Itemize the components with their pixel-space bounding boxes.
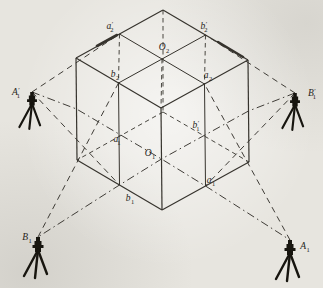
tripod-leg-2 [290, 253, 299, 277]
cube-edge-right_top-right_bottom [248, 60, 249, 162]
sight-ray-A1-a2 [205, 84, 291, 240]
point-label-b1: b1 [126, 193, 134, 205]
cube-edge-left_top-left_bottom [76, 58, 77, 160]
point-label-a2: a2 [204, 70, 212, 82]
tripod-leg-2 [295, 105, 303, 127]
scanned-figure-page: a′2b′2O2b2a2a′1b′1O1b1a1A′1B′1B1A1 [0, 0, 323, 288]
point-label-b1p: b′1 [193, 119, 200, 133]
point-label-O2: O2 [159, 42, 169, 54]
ray-edge-overlap-1 [218, 42, 243, 57]
sight-ray-B1p-a1 [206, 93, 296, 186]
plumb-line-O2-front_top [161, 59, 162, 108]
station-label-B1: B1 [22, 232, 31, 244]
tripod-leg-2 [32, 104, 40, 126]
point-label-O1: O1 [145, 148, 155, 160]
tripod-A1p [19, 92, 40, 129]
tripod-B1p [282, 93, 303, 130]
station-label-A1: A1 [299, 241, 309, 253]
sight-ray-B1-b2 [38, 83, 119, 237]
cube-edge-front_top-front_bottom [161, 108, 162, 210]
point-label-b2: b2 [111, 69, 119, 81]
station-label-B1p: B′1 [308, 87, 316, 101]
ray-edge-overlap-0 [97, 35, 117, 46]
tripod-A1 [276, 240, 299, 281]
point-label-b2p: b′2 [201, 20, 208, 34]
survey-cube-diagram: a′2b′2O2b2a2a′1b′1O1b1a1A′1B′1B1A1 [0, 0, 323, 288]
tripod-leg-2 [38, 250, 47, 274]
cube-grid-a2-a1 [205, 84, 206, 186]
point-label-a2p: a′2 [107, 20, 114, 34]
point-label-a1p: a′1 [114, 133, 121, 147]
station-label-A1p: A′1 [11, 86, 20, 100]
